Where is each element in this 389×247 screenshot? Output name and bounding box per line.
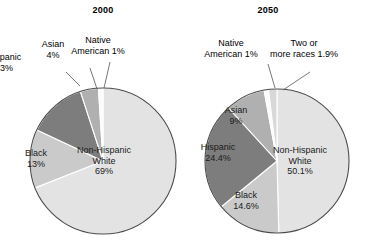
label-native-american-2050: Native American 1% (204, 38, 258, 59)
label-hispanic-2000: Hispanic 13% (0, 52, 21, 73)
label-asian-2050: Asian 9% (225, 105, 248, 126)
label-hispanic-2050: Hispanic 24.4% (201, 142, 236, 163)
label-asian-2000: Asian 4% (42, 39, 65, 60)
leader-lines (66, 62, 310, 90)
label-non-hispanic-white-2050: Non-Hispanic White 50.1% (273, 145, 327, 177)
pie-chart-figure: 2000 2050 Hispanic 13% Asian 4% Native A… (0, 0, 389, 247)
label-native-american-2000: Native American 1% (71, 35, 125, 56)
label-black-2000: Black 13% (25, 148, 47, 169)
label-non-hispanic-white-2000: Non-Hispanic White 69% (77, 145, 131, 177)
label-two-or-more-races-2050: Two or more races 1.9% (270, 38, 338, 59)
label-black-2050: Black 14.6% (233, 190, 259, 211)
